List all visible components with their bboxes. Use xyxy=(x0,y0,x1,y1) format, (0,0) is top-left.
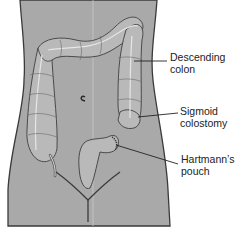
label-line: colon xyxy=(170,63,225,75)
label-line: Hartmann’s xyxy=(181,153,235,165)
label-line: Descending xyxy=(170,51,225,63)
label-sigmoid-colostomy: Sigmoid colostomy xyxy=(180,105,227,129)
sigmoid-colostomy-shape xyxy=(118,110,140,129)
label-line: Sigmoid xyxy=(180,105,227,117)
label-descending-colon: Descending colon xyxy=(170,51,225,75)
label-line: colostomy xyxy=(180,117,227,129)
label-hartmanns-pouch: Hartmann’s pouch xyxy=(181,153,235,177)
label-line: pouch xyxy=(181,165,235,177)
